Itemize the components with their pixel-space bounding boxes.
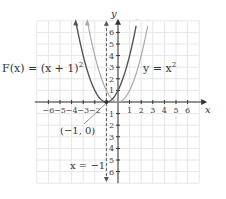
x-tick-label: 2 xyxy=(139,106,144,115)
y-tick-label: 2 xyxy=(109,75,114,84)
x-tick-label: −4 xyxy=(66,106,78,115)
y-tick-label: 3 xyxy=(109,63,114,72)
graph: −6−5−4−3−2123456654321123456 F(x) = (x +… xyxy=(0,0,226,199)
y-tick-label: 3 xyxy=(109,133,114,142)
axis-symmetry-label: x = −1 xyxy=(70,160,105,171)
y-axis-label: y xyxy=(110,8,117,19)
g-label: y = x2 xyxy=(142,61,176,75)
f-label: F(x) = (x + 1)2 xyxy=(2,61,83,75)
y-tick-label: 1 xyxy=(109,86,114,95)
x-tick-label: −3 xyxy=(77,106,89,115)
x-tick-label: −5 xyxy=(54,106,66,115)
y-tick-label: 4 xyxy=(109,52,114,61)
y-tick-label: 6 xyxy=(109,28,114,37)
x-tick-label: 6 xyxy=(185,106,190,115)
x-tick-label: 3 xyxy=(150,106,155,115)
x-tick-label: 4 xyxy=(162,106,167,115)
y-tick-label: 5 xyxy=(109,40,114,49)
x-tick-label: 1 xyxy=(127,106,132,115)
y-tick-label: 6 xyxy=(109,168,114,177)
x-tick-label: −6 xyxy=(43,106,55,115)
y-tick-label: 4 xyxy=(109,144,114,153)
x-tick-label: 5 xyxy=(173,106,178,115)
y-tick-label: 5 xyxy=(109,156,114,165)
y-tick-label: 2 xyxy=(109,121,114,130)
y-tick-label: 1 xyxy=(109,110,114,119)
x-axis-label: x xyxy=(205,104,211,115)
vertex-label: (−1, 0) xyxy=(60,125,95,136)
